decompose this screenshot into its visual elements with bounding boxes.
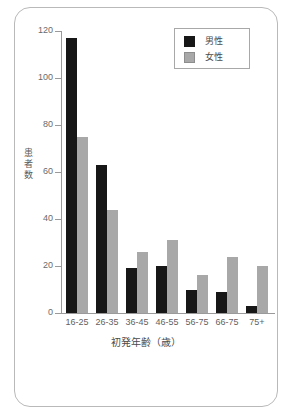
legend-swatch-female-icon [184, 52, 195, 63]
y-axis-title-char: 者 [22, 159, 34, 170]
y-axis-tick-label: 0 [13, 308, 53, 317]
y-axis-tick [55, 125, 61, 126]
y-axis-tick-label: 40 [13, 214, 53, 223]
legend-item-male: 男性 [184, 35, 223, 47]
y-axis-tick [55, 313, 61, 314]
y-axis-tick [55, 266, 61, 267]
legend-item-female: 女性 [184, 51, 223, 63]
x-axis-line [61, 313, 275, 314]
y-axis-tick-label: 80 [13, 120, 53, 129]
y-axis-tick-label: 120 [13, 26, 53, 35]
y-axis-tick [55, 31, 61, 32]
bar-36-45-男性 [126, 268, 137, 313]
bar-16-25-男性 [66, 38, 77, 313]
y-axis-tick [55, 172, 61, 173]
bar-46-55-女性 [167, 240, 178, 313]
y-axis-title: 患者数 [22, 148, 34, 181]
bar-46-55-男性 [156, 266, 167, 313]
bar-66-75-女性 [227, 257, 238, 313]
y-axis-tick [55, 78, 61, 79]
bar-26-35-女性 [107, 210, 118, 313]
bar-75+-女性 [257, 266, 268, 313]
y-axis-title-char: 患 [22, 148, 34, 159]
y-axis-tick-label: 20 [13, 261, 53, 270]
x-axis-title: 初発年齢（歳） [0, 337, 291, 349]
y-axis-title-char: 数 [22, 170, 34, 181]
legend-swatch-male-icon [184, 36, 195, 47]
bar-66-75-男性 [216, 292, 227, 313]
bar-75+-男性 [246, 306, 257, 313]
bar-26-35-男性 [96, 165, 107, 313]
bar-16-25-女性 [77, 137, 88, 313]
legend-label-male: 男性 [205, 36, 223, 46]
bar-56-75-女性 [197, 275, 208, 313]
bar-56-75-男性 [186, 290, 197, 314]
legend-label-female: 女性 [205, 52, 223, 62]
x-axis-label-75+: 75+ [237, 317, 277, 327]
chart-legend: 男性 女性 [174, 28, 250, 69]
plot-area [62, 31, 272, 313]
y-axis-tick [55, 219, 61, 220]
bar-36-45-女性 [137, 252, 148, 313]
y-axis-tick-label: 100 [13, 73, 53, 82]
